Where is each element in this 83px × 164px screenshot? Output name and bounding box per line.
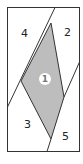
region-label-3: 3 [24,119,31,130]
region-label-1: 1 [39,73,51,85]
region-label-4: 4 [21,28,28,39]
region-label-2: 2 [64,27,71,38]
region-label-5: 5 [62,131,69,142]
